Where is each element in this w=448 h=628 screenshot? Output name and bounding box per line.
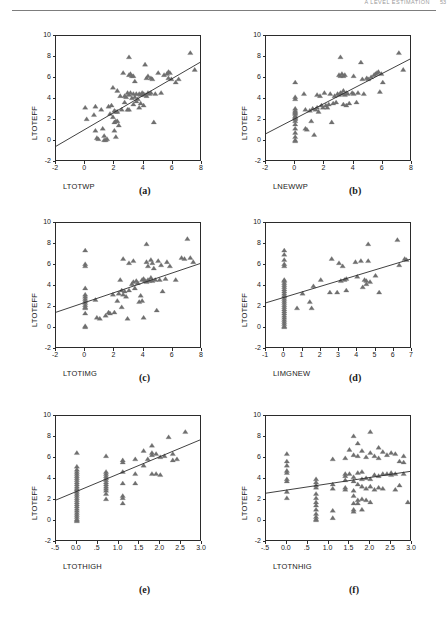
- y-tick-f--2: -2: [241, 537, 261, 544]
- y-tickmark-c: [53, 264, 56, 265]
- panel-caption-c: (c): [139, 372, 150, 383]
- x-tickmark-f: [411, 541, 412, 545]
- panel-caption-a: (a): [139, 185, 151, 196]
- y-tick-e-6: 6: [31, 453, 51, 460]
- x-tick-b-4: 4: [342, 164, 364, 171]
- x-tick-c-8: 8: [190, 351, 212, 358]
- x-tick-c-2: 2: [102, 351, 124, 358]
- y-tickmark-c: [53, 243, 56, 244]
- x-axis-label-a: LTOTWP: [63, 182, 95, 191]
- y-tickmark-f: [263, 457, 266, 458]
- x-tickmark-e: [201, 541, 202, 545]
- x-tickmark-e: [138, 541, 139, 545]
- x-tick-f-1.5: 1.5: [337, 544, 359, 551]
- x-tickmark-b: [265, 161, 266, 165]
- y-tickmark-a: [53, 140, 56, 141]
- panel-caption-e: (e): [139, 584, 150, 595]
- y-tick-c-4: 4: [31, 281, 51, 288]
- x-tickmark-f: [348, 541, 349, 545]
- x-tick-e-3.0: 3.0: [190, 544, 212, 551]
- x-tick-e--.5: -.5: [44, 544, 66, 551]
- y-tickmark-f: [263, 499, 266, 500]
- y-tickmark-f: [263, 415, 266, 416]
- y-tickmark-b: [263, 35, 266, 36]
- y-tickmark-b: [263, 56, 266, 57]
- x-tickmark-e: [118, 541, 119, 545]
- y-tick-c-10: 10: [31, 218, 51, 225]
- y-tick-e-4: 4: [31, 474, 51, 481]
- x-tickmark-a: [201, 161, 202, 165]
- y-tick-e-8: 8: [31, 432, 51, 439]
- x-tickmark-d: [411, 348, 412, 352]
- x-tick-e-2.0: 2.0: [148, 544, 170, 551]
- x-tickmark-d: [393, 348, 394, 352]
- y-tick-b-4: 4: [241, 94, 261, 101]
- x-tick-e-1.5: 1.5: [127, 544, 149, 551]
- y-tick-d-4: 4: [241, 281, 261, 288]
- x-tickmark-e: [159, 541, 160, 545]
- x-axis-label-c: LTOTIMG: [63, 369, 97, 378]
- x-tickmark-f: [328, 541, 329, 545]
- y-axis-label-d: LTOTEFF: [240, 293, 249, 327]
- y-tickmark-c: [53, 285, 56, 286]
- y-tick-b-8: 8: [241, 52, 261, 59]
- x-tick-e-0.0: 0.0: [65, 544, 87, 551]
- y-tick-d-6: 6: [241, 260, 261, 267]
- y-tickmark-b: [263, 77, 266, 78]
- y-tickmark-f: [263, 478, 266, 479]
- x-tickmark-c: [84, 348, 85, 352]
- x-tick-c-6: 6: [161, 351, 183, 358]
- x-tickmark-a: [172, 161, 173, 165]
- y-tick-a-4: 4: [31, 94, 51, 101]
- x-tick-f--.5: -.5: [254, 544, 276, 551]
- x-tickmark-c: [201, 348, 202, 352]
- x-tickmark-c: [143, 348, 144, 352]
- plot-area-c: [55, 222, 201, 348]
- x-tickmark-b: [294, 161, 295, 165]
- plot-area-d: [265, 222, 411, 348]
- x-tick-e-.5: .5: [86, 544, 108, 551]
- x-tickmark-d: [356, 348, 357, 352]
- x-tickmark-f: [286, 541, 287, 545]
- x-tickmark-d: [338, 348, 339, 352]
- plot-area-e: [55, 415, 201, 541]
- x-tick-e-2.5: 2.5: [169, 544, 191, 551]
- x-tickmark-f: [307, 541, 308, 545]
- panel-caption-b: (b): [349, 185, 361, 196]
- plot-area-f: [265, 415, 411, 541]
- y-tickmark-e: [53, 499, 56, 500]
- x-tick-a-0: 0: [73, 164, 95, 171]
- x-tickmark-d: [283, 348, 284, 352]
- x-tickmark-d: [302, 348, 303, 352]
- y-tick-b-6: 6: [241, 73, 261, 80]
- scatterplot-figure: -20246810-202468LTOTEFFLTOTWP(a)-2024681…: [0, 0, 448, 628]
- plot-area-a: [55, 35, 201, 161]
- x-tickmark-e: [97, 541, 98, 545]
- y-tickmark-a: [53, 35, 56, 36]
- y-tickmark-e: [53, 415, 56, 416]
- x-tick-d-7: 7: [400, 351, 422, 358]
- x-tick-f-3.0: 3.0: [400, 544, 422, 551]
- y-tickmark-d: [263, 264, 266, 265]
- x-tickmark-f: [265, 541, 266, 545]
- x-tick-b-8: 8: [400, 164, 422, 171]
- y-tickmark-d: [263, 306, 266, 307]
- y-tickmark-c: [53, 306, 56, 307]
- y-tick-a-10: 10: [31, 31, 51, 38]
- y-tickmark-f: [263, 520, 266, 521]
- x-tick-c-4: 4: [132, 351, 154, 358]
- x-tick-f-0.0: 0.0: [275, 544, 297, 551]
- x-tick-f-.5: .5: [296, 544, 318, 551]
- x-tickmark-f: [369, 541, 370, 545]
- x-tick-f-1.0: 1.0: [317, 544, 339, 551]
- y-tick-b-10: 10: [241, 31, 261, 38]
- y-tickmark-e: [53, 478, 56, 479]
- x-tickmark-e: [180, 541, 181, 545]
- y-tickmark-a: [53, 119, 56, 120]
- y-tickmark-e: [53, 436, 56, 437]
- x-tick-f-2.5: 2.5: [379, 544, 401, 551]
- x-tick-e-1.0: 1.0: [107, 544, 129, 551]
- x-axis-label-e: LTOTHIGH: [63, 562, 102, 571]
- y-tick-f-10: 10: [241, 411, 261, 418]
- y-tick-f-8: 8: [241, 432, 261, 439]
